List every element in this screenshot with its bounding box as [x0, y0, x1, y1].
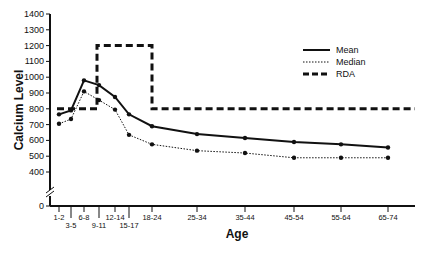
x-tick-label: 1-2: [54, 213, 65, 222]
data-point-marker: [386, 156, 390, 160]
data-point-marker: [292, 140, 296, 144]
legend: MeanMedianRDA: [303, 45, 366, 79]
data-point-marker: [339, 156, 343, 160]
y-tick-label: 0: [39, 201, 44, 211]
data-point-marker: [82, 78, 86, 82]
y-tick-label: 700: [29, 120, 44, 130]
x-tick-label: 18-24: [142, 213, 161, 222]
x-tick-label: 35-44: [235, 213, 254, 222]
x-tick-label: 25-34: [187, 213, 206, 222]
x-axis-title: Age: [226, 227, 249, 241]
y-tick-label: 1100: [25, 56, 44, 66]
calcium-line-chart: 040050060070080090010001100120013001400 …: [0, 0, 421, 253]
series-mean-line: [59, 80, 388, 147]
data-point-marker: [195, 148, 199, 152]
y-tick-label: 1200: [24, 41, 44, 51]
x-tick-label: 15-17: [119, 221, 138, 230]
y-tick-label: 1400: [24, 9, 44, 19]
x-tick-label: 65-74: [378, 213, 397, 222]
x-tick-label: 6-8: [79, 213, 90, 222]
data-point-marker: [127, 112, 131, 116]
data-point-marker: [243, 151, 247, 155]
x-tick-label: 55-64: [331, 213, 350, 222]
x-tick-label: 9-11: [92, 221, 106, 230]
data-point-marker: [97, 83, 101, 87]
x-tick-label: 45-54: [284, 213, 303, 222]
data-point-marker: [195, 132, 199, 136]
legend-label: RDA: [336, 69, 355, 79]
legend-label: Median: [336, 57, 366, 67]
data-point-marker: [339, 142, 343, 146]
data-point-marker: [292, 156, 296, 160]
data-point-marker: [113, 107, 117, 111]
y-tick-label: 900: [29, 88, 44, 98]
y-tick-label: 500: [29, 151, 44, 161]
data-point-marker: [113, 95, 117, 99]
data-point-marker: [386, 145, 390, 149]
x-tick-label: 3-5: [66, 221, 77, 230]
data-point-marker: [57, 122, 61, 126]
y-tick-label: 1000: [24, 72, 44, 82]
data-point-marker: [57, 112, 61, 116]
series-rda-line: [57, 46, 415, 109]
data-point-marker: [127, 133, 131, 137]
y-tick-label: 800: [29, 104, 44, 114]
data-point-marker: [243, 136, 247, 140]
y-axis: 040050060070080090010001100120013001400: [24, 9, 54, 211]
series-median-line: [59, 91, 388, 157]
y-ticks: 040050060070080090010001100120013001400: [24, 9, 50, 211]
y-tick-label: 1300: [24, 25, 44, 35]
data-point-marker: [150, 142, 154, 146]
y-tick-label: 600: [29, 135, 44, 145]
data-point-marker: [82, 89, 86, 93]
y-tick-label: 400: [29, 167, 44, 177]
legend-label: Mean: [336, 45, 359, 55]
data-point-marker: [69, 117, 73, 121]
y-axis-title: Calcium Level: [12, 70, 26, 151]
data-point-marker: [150, 124, 154, 128]
